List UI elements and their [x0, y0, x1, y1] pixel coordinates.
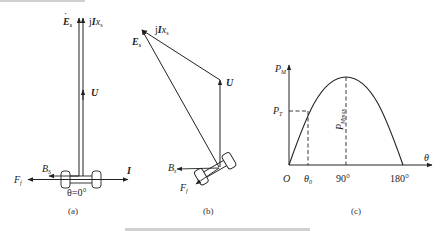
label-F-a: Ff	[13, 174, 23, 186]
label-PT: PT	[272, 105, 283, 117]
panel-b: Es jIxs U Bs Ff (b)	[131, 24, 237, 216]
label-B-b: Bs	[168, 162, 177, 174]
panel-a: Es · jIxs U I BS Ff θ=0° (a)	[13, 8, 132, 216]
bottom-caption-cutoff	[125, 228, 310, 231]
figure-canvas: Es · jIxs U I BS Ff θ=0° (a) Es jIxs U B…	[0, 0, 440, 231]
label-U-b: U	[226, 77, 234, 88]
phasor-jIx-b	[142, 30, 220, 80]
label-Pmax: PMmax	[334, 109, 346, 131]
label-U-a: U	[91, 87, 99, 98]
panel-a-caption: (a)	[68, 206, 78, 216]
label-PM-axis: PM	[274, 63, 287, 75]
panel-c: PM PT θ O θ0 90° 180° PMmax (c)	[272, 63, 432, 216]
dot-E-a: ·	[64, 8, 67, 19]
panel-b-caption: (b)	[203, 206, 214, 216]
label-theta-zero: θ=0°	[67, 187, 86, 198]
label-jIx-a: jIxs	[88, 16, 103, 28]
label-theta-axis: θ	[424, 152, 429, 163]
tick-theta0: θ0	[304, 173, 312, 185]
label-E-b: Es	[131, 36, 142, 48]
label-I-a: I	[126, 165, 132, 176]
tick-180: 180°	[390, 173, 409, 184]
label-B-a: BS	[42, 163, 51, 175]
top-cutoff-text	[0, 0, 85, 2]
tick-90: 90°	[336, 173, 350, 184]
phasor-B-b	[177, 168, 219, 169]
label-origin: O	[283, 173, 290, 184]
panel-c-caption: (c)	[351, 206, 361, 216]
label-F-b: Ff	[179, 182, 189, 194]
phasor-E-b	[142, 30, 219, 167]
label-jIx-b: jIxs	[154, 24, 169, 36]
